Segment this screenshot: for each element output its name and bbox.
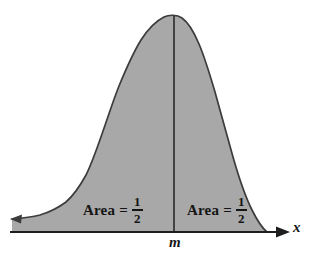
arrow-right-icon — [276, 227, 290, 238]
figure-container: Area = 1 2 Area = 1 2 m x — [0, 0, 311, 261]
density-curve-fill — [12, 15, 267, 232]
distribution-chart — [0, 0, 311, 261]
